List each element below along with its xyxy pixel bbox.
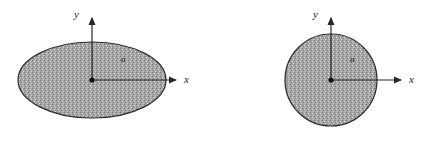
- origin-dot: [89, 77, 94, 82]
- circle-x-axis-label: x: [409, 74, 414, 85]
- ellipse-figure-panel: y x a: [0, 0, 214, 141]
- ellipse-region-label: a: [121, 55, 126, 64]
- ellipse-figure-svg: [0, 0, 214, 141]
- ellipse-y-axis-label: y: [74, 9, 79, 20]
- ellipse-x-axis-label: x: [184, 74, 189, 85]
- circle-figure-svg: [214, 0, 428, 141]
- circle-figure-panel: y x a: [214, 0, 428, 141]
- figure-canvas: y x a y x: [0, 0, 428, 141]
- circle-y-axis-label: y: [313, 9, 318, 20]
- origin-dot: [328, 77, 333, 82]
- circle-region-label: a: [350, 55, 355, 64]
